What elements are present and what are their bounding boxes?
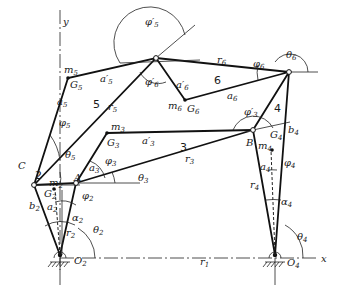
link-5-number: 5 (93, 98, 100, 111)
theta2-label: θ2 (93, 224, 104, 237)
theta4-label: θ4 (297, 231, 308, 244)
link-2-number: 2 (35, 169, 42, 182)
phi5-label: φ5 (59, 117, 71, 130)
r2-label: r2 (66, 227, 76, 240)
alpha4-arc (266, 199, 281, 200)
mass-center-g6 (183, 98, 187, 102)
a6-label: a6 (227, 90, 238, 103)
r1-label: r1 (200, 256, 209, 269)
joint-c-label: C (18, 160, 26, 171)
joint-b-label: B (245, 137, 253, 148)
m5-label: m5 (64, 64, 78, 77)
phi5p-ext (156, 25, 195, 58)
phi4-label: φ4 (284, 157, 295, 170)
joint-e (154, 56, 159, 61)
theta6-label: θ6 (286, 49, 297, 62)
link-5 (34, 58, 156, 185)
phi2-arc (55, 201, 76, 205)
mass-center-g3 (105, 131, 109, 135)
phi2-label: φ2 (82, 190, 94, 203)
m6-label: m6 (168, 100, 182, 113)
a5-prime-label: a′5 (100, 73, 113, 86)
link-6-number: 6 (214, 74, 221, 87)
theta5-label: θ5 (65, 149, 76, 162)
b4-label: b4 (288, 124, 299, 137)
g5-label: G5 (70, 79, 83, 92)
link-3 (76, 130, 253, 183)
joint-b (251, 128, 256, 133)
theta3-arc (112, 172, 115, 183)
linkage-diagram: y x O2 O4 C A B 2 3 4 5 6 G2 m2 G3 m3 G4… (0, 0, 339, 294)
phi5-arc (50, 135, 60, 160)
g4-label: G4 (270, 129, 282, 142)
o4-label: O4 (287, 257, 300, 270)
joint-d (287, 70, 292, 75)
o2-label: O2 (74, 255, 87, 268)
phi6-prime-label: φ′6 (145, 76, 159, 89)
g6-label: G6 (187, 103, 200, 116)
joint-c (32, 183, 37, 188)
joint-a-label: A (73, 172, 81, 183)
b2-label: b2 (29, 200, 40, 213)
x-axis-label: x (321, 253, 327, 264)
r4-label: r4 (250, 179, 259, 192)
g3-label: G3 (107, 137, 120, 150)
m4-label: m4 (258, 140, 272, 153)
y-axis-label: y (62, 16, 69, 27)
alpha2-label: α2 (72, 212, 84, 225)
a4-label: a4 (260, 161, 270, 174)
r3-label: r3 (185, 153, 195, 166)
a3-label: a3 (89, 162, 100, 175)
link-4-number: 4 (274, 102, 281, 115)
diagram-canvas: y x O2 O4 C A B 2 3 4 5 6 G2 m2 G3 m3 G4… (0, 0, 339, 294)
phi3-label: φ3 (105, 155, 117, 168)
a3-prime-label: a′3 (142, 135, 155, 148)
alpha4-label: α4 (281, 196, 292, 209)
phi5-prime-label: φ′5 (145, 16, 159, 29)
